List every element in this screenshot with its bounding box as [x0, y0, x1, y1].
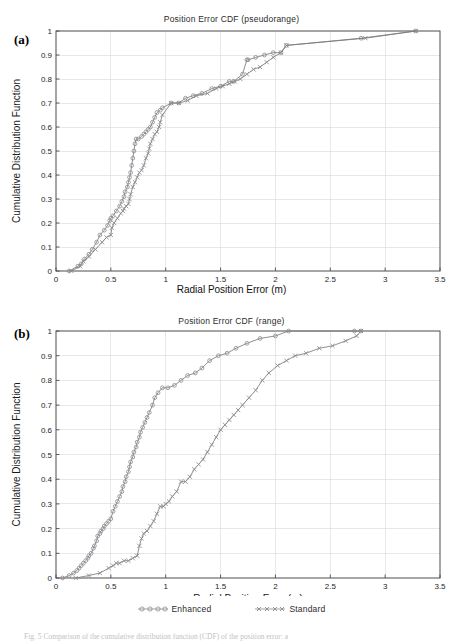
ytick-label: 0.6: [41, 426, 53, 435]
ytick-label: 0.4: [41, 171, 53, 180]
legend-label-standard: Standard: [289, 604, 325, 614]
panel-b-plot: Cumulative Distribution Function00.511.5…: [0, 306, 463, 596]
ytick-label: 0.7: [41, 401, 53, 410]
figure-legend: Enhanced Standard: [0, 604, 463, 614]
xtick-label: 2.5: [325, 275, 337, 284]
ytick-label: 0.2: [41, 525, 53, 534]
ytick-label: 0.9: [41, 51, 53, 60]
panel-b: Position Error CDF (range) (b) Cumulativ…: [0, 306, 463, 596]
figure-root: Position Error CDF (pseudorange) (a) Cum…: [0, 0, 463, 642]
x-marker-icon: [255, 604, 285, 614]
legend-item-enhanced: Enhanced: [138, 604, 212, 614]
ytick-label: 0.6: [41, 123, 53, 132]
panel-b-title: Position Error CDF (range): [0, 316, 463, 326]
ytick-label: 0.8: [41, 376, 53, 385]
panel-a: Position Error CDF (pseudorange) (a) Cum…: [0, 6, 463, 306]
ytick-label: 0.3: [41, 195, 53, 204]
xtick-label: 3.5: [434, 582, 446, 591]
panel-a-xaxis-title: Radial Position Error (m): [0, 284, 463, 295]
ytick-label: 0.8: [41, 75, 53, 84]
xtick-label: 1: [163, 582, 168, 591]
xtick-label: 2: [273, 275, 278, 284]
legend-item-standard: Standard: [255, 604, 325, 614]
xtick-label: 0.5: [105, 582, 117, 591]
ytick-label: 0.5: [41, 451, 53, 460]
ytick-label: 0.4: [41, 475, 53, 484]
xtick-label: 1.5: [215, 582, 227, 591]
ytick-label: 0: [48, 574, 53, 583]
panel-a-plot: Cumulative Distribution Function00.511.5…: [0, 6, 463, 306]
xtick-label: 3: [383, 275, 388, 284]
legend-label-enhanced: Enhanced: [172, 604, 212, 614]
ytick-label: 0: [48, 267, 53, 276]
svg-b-yaxis-title: Cumulative Distribution Function: [11, 383, 22, 527]
xtick-label: 0: [54, 582, 59, 591]
panel-a-letter: (a): [14, 32, 29, 48]
xtick-label: 1: [163, 275, 168, 284]
xtick-label: 1.5: [215, 275, 227, 284]
xtick-label: 2: [273, 582, 278, 591]
ytick-label: 0.1: [41, 243, 53, 252]
xtick-label: 0.5: [105, 275, 117, 284]
ytick-label: 0.7: [41, 99, 53, 108]
xtick-label: 3.5: [434, 275, 446, 284]
svg-a-yaxis-title: Cumulative Distribution Function: [11, 79, 22, 223]
ytick-label: 0.3: [41, 500, 53, 509]
ytick-label: 0.2: [41, 219, 53, 228]
ytick-label: 0.1: [41, 549, 53, 558]
xtick-label: 2.5: [325, 582, 337, 591]
panel-a-title: Position Error CDF (pseudorange): [0, 14, 463, 24]
ytick-label: 0.5: [41, 147, 53, 156]
panel-b-letter: (b): [14, 326, 30, 342]
ytick-label: 1: [48, 327, 53, 336]
ytick-label: 1: [48, 27, 53, 36]
ytick-label: 0.9: [41, 352, 53, 361]
circle-marker-icon: [138, 604, 168, 614]
svg-b-xaxis-title: Radial Position Error (m): [193, 593, 302, 596]
figure-caption: Fig. 5 Comparison of the cumulative dist…: [24, 632, 444, 641]
xtick-label: 3: [383, 582, 388, 591]
xtick-label: 0: [54, 275, 59, 284]
